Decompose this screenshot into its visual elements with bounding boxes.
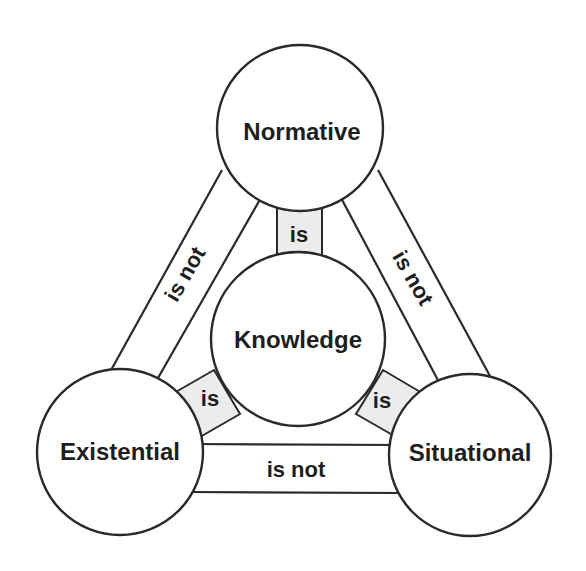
node-label-normative: Normative (243, 118, 360, 145)
node-label-knowledge: Knowledge (234, 326, 362, 353)
band-outer-line (378, 170, 490, 376)
edge-label-normative-knowledge: is (290, 222, 308, 247)
node-existential: Existential (37, 369, 203, 535)
edge-label-situational-knowledge: is (373, 388, 391, 413)
node-label-existential: Existential (60, 438, 180, 465)
edge-existential-situational: is not (190, 444, 400, 493)
edge-label-existential-knowledge: is (201, 386, 219, 411)
band-outer-line (110, 170, 222, 372)
band-top-line (190, 444, 400, 445)
edge-label-normative-existential: is not (160, 242, 211, 306)
band-bottom-line (190, 492, 400, 493)
node-knowledge: Knowledge (211, 252, 385, 426)
node-situational: Situational (389, 374, 551, 536)
node-label-situational: Situational (409, 439, 532, 466)
knowledge-triangle-diagram: is not is not is not is is is Normative … (0, 0, 586, 571)
edge-label-existential-situational: is not (267, 457, 326, 482)
node-normative: Normative (217, 45, 383, 211)
